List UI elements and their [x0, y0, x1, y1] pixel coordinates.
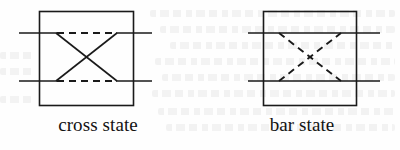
panel-bar-state — [248, 12, 380, 106]
cross-state-box — [40, 12, 134, 106]
bar-state-caption: bar state — [204, 114, 400, 136]
panel-cross-state — [19, 12, 152, 106]
bar-state-box — [264, 12, 357, 106]
figure-container: cross state bar state — [0, 0, 400, 150]
cross-state-caption: cross state — [0, 114, 196, 136]
